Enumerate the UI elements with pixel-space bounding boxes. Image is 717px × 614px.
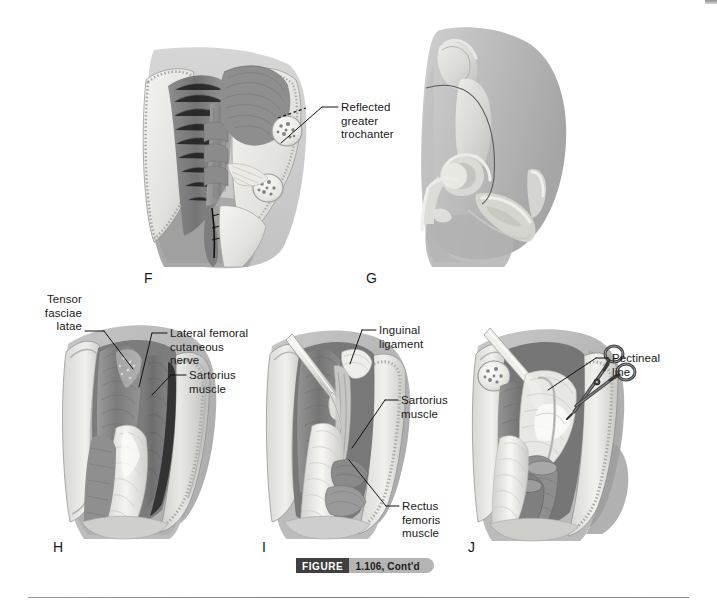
- label-sartorius-muscle-i: Sartorius muscle: [401, 394, 475, 421]
- figure-caption-word: FIGURE: [296, 558, 349, 573]
- figure-page: Reflected greater trochanter Tensor fasc…: [0, 0, 717, 614]
- label-tensor-fasciae-latae: Tensor fasciae latae: [24, 293, 82, 334]
- label-inguinal-ligament: Inguinal ligament: [379, 324, 455, 351]
- panel-letter-G: G: [366, 270, 377, 286]
- panel-F-illustration: [128, 46, 316, 271]
- panel-letter-F: F: [144, 270, 153, 286]
- page-corner-mark: [705, 0, 717, 4]
- label-pectineal-line: Pectineal line: [612, 352, 688, 379]
- label-lateral-femoral-cutaneous-nerve: Lateral femoral cutaneous nerve: [170, 327, 266, 368]
- panel-letter-I: I: [262, 539, 266, 555]
- panel-letter-H: H: [53, 539, 63, 555]
- panel-G-illustration: [404, 24, 600, 268]
- panel-letter-J: J: [468, 539, 475, 555]
- label-reflected-greater-trochanter: Reflected greater trochanter: [341, 101, 431, 142]
- label-rectus-femoris-muscle: Rectus femoris muscle: [402, 500, 472, 541]
- page-footer-rule: [28, 597, 689, 598]
- panel-G-artwork: [404, 24, 600, 268]
- figure-caption-number: 1.106, Cont'd: [349, 558, 433, 573]
- figure-caption: FIGURE 1.106, Cont'd: [296, 558, 434, 573]
- label-sartorius-muscle-h: Sartorius muscle: [189, 369, 263, 396]
- panel-F-artwork: [128, 46, 316, 271]
